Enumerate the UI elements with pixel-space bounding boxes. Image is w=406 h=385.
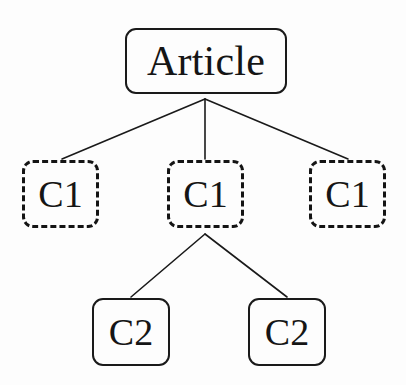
diagram-canvas: Article C1 C1 C1 C2 C2 [0,0,406,385]
node-c1-middle: C1 [167,160,244,228]
node-c1-left-label: C1 [38,175,83,213]
node-c1-middle-label: C1 [183,175,228,213]
edge-root-to-c1-a [62,99,205,159]
node-c2-left: C2 [92,298,170,366]
node-c2-left-label: C2 [109,313,154,351]
edge-root-to-c1-c [205,99,348,159]
node-c2-right-label: C2 [265,313,310,351]
node-c1-right: C1 [309,160,386,228]
node-c2-right: C2 [248,298,326,366]
edge-c1-b-to-c2-a [131,234,205,297]
node-article: Article [125,28,287,94]
node-c1-left: C1 [22,160,99,228]
node-article-label: Article [147,40,265,82]
node-c1-right-label: C1 [325,175,370,213]
edge-c1-b-to-c2-b [205,234,287,297]
